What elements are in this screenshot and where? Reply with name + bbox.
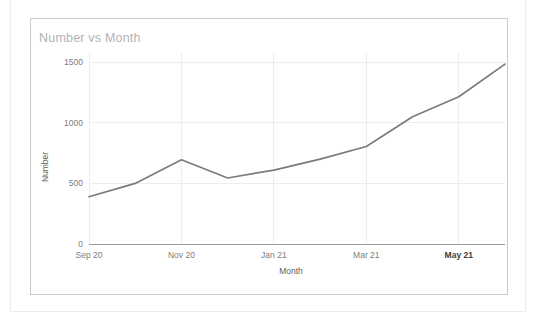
x-tick-label: Sep 20 (76, 250, 103, 260)
y-tick-label: 0 (78, 239, 83, 249)
series-line-number (89, 64, 505, 197)
y-tick-label: 1500 (64, 57, 83, 67)
line-chart-plot: 050010001500 Sep 20Nov 20Jan 21Mar 21May… (31, 19, 509, 296)
x-tick-labels-group: Sep 20Nov 20Jan 21Mar 21May 21 (76, 250, 474, 260)
chart-card: Number vs Month 050010001500 Sep 20Nov 2… (30, 18, 508, 295)
gridlines-group (89, 53, 505, 244)
x-tick-label: May 21 (445, 250, 474, 260)
y-tick-label: 500 (69, 178, 83, 188)
x-tick-label: Jan 21 (261, 250, 287, 260)
y-tick-labels-group: 050010001500 (64, 57, 83, 249)
y-tick-label: 1000 (64, 118, 83, 128)
x-tick-label: Mar 21 (353, 250, 380, 260)
x-tick-label: Nov 20 (168, 250, 195, 260)
series-group (89, 64, 505, 197)
y-axis-title: Number (40, 152, 50, 182)
x-axis-title: Month (279, 266, 303, 276)
